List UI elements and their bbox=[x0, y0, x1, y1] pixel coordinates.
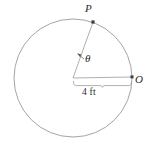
radius-length-label: 4 ft bbox=[82, 88, 96, 98]
radius-line-to-o bbox=[73, 77, 132, 78]
point-marker-o bbox=[131, 75, 134, 78]
point-marker-p bbox=[91, 20, 94, 23]
geometry-figure: P O θ 4 ft bbox=[0, 0, 149, 151]
angle-arrow-icon bbox=[77, 53, 84, 59]
radius-line-to-p bbox=[73, 22, 93, 78]
figure-canvas bbox=[0, 0, 149, 151]
point-label-o: O bbox=[135, 74, 143, 85]
angle-label-theta: θ bbox=[85, 53, 90, 64]
point-label-p: P bbox=[85, 3, 92, 14]
